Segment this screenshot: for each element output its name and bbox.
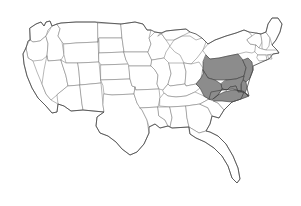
state-co[interactable]: Colorado xyxy=(78,62,101,85)
state-ar[interactable]: Arkansas xyxy=(134,87,160,108)
us-state-map: WashingtonOregonCaliforniaIdahoNevadaMon… xyxy=(0,0,301,206)
state-mn[interactable]: Minnesota xyxy=(121,22,151,52)
state-sd[interactable]: South Dakota xyxy=(99,38,124,53)
state-ok[interactable]: Oklahoma xyxy=(101,79,135,95)
state-in[interactable]: Indiana xyxy=(168,63,186,86)
state-ia[interactable]: Iowa xyxy=(124,52,152,66)
state-mt[interactable]: Montana xyxy=(57,22,98,44)
state-ks[interactable]: Kansas xyxy=(101,64,130,80)
states-layer: WashingtonOregonCaliforniaIdahoNevadaMon… xyxy=(23,18,282,183)
state-wy[interactable]: Wyoming xyxy=(64,42,99,63)
state-nm[interactable]: New Mexico xyxy=(80,83,104,112)
us-map-svg: WashingtonOregonCaliforniaIdahoNevadaMon… xyxy=(0,0,301,206)
